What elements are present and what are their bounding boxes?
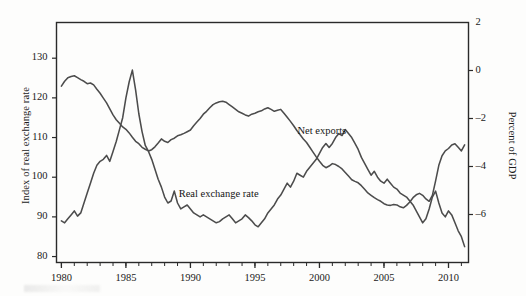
x-tick-label-2005: 2005 — [364, 272, 404, 283]
figure-container: Index of real exchange rate Percent of G… — [0, 0, 526, 296]
left-tick-label-120: 120 — [22, 91, 48, 102]
left-tick-label-100: 100 — [22, 170, 48, 181]
left-tick-label-130: 130 — [22, 51, 48, 62]
right-axis-title: Percent of GDP — [507, 86, 518, 206]
x-tick-label-2010: 2010 — [429, 272, 469, 283]
chart-plot-area — [0, 0, 526, 296]
series-line-real-exchange-rate — [61, 70, 464, 247]
right-tick-label-3: –4 — [476, 160, 502, 171]
right-tick-label-2: –2 — [476, 112, 502, 123]
right-tick-label-0: 2 — [476, 16, 502, 27]
x-tick-label-2000: 2000 — [299, 272, 339, 283]
right-tick-label-4: –6 — [476, 208, 502, 219]
right-tick-label-1: 0 — [476, 64, 502, 75]
x-tick-label-1990: 1990 — [170, 272, 210, 283]
series-line-net-exports — [61, 76, 464, 208]
axis-frame — [57, 23, 469, 263]
left-tick-label-110: 110 — [22, 131, 48, 142]
x-axis-major-ticks — [61, 263, 448, 269]
left-tick-label-90: 90 — [22, 210, 48, 221]
left-tick-label-80: 80 — [22, 250, 48, 261]
series-label-net-exports: Net exports — [297, 125, 346, 136]
series-label-real-exchange-rate: Real exchange rate — [179, 188, 259, 199]
x-tick-label-1985: 1985 — [106, 272, 146, 283]
x-tick-label-1995: 1995 — [235, 272, 275, 283]
x-tick-label-1980: 1980 — [41, 272, 81, 283]
